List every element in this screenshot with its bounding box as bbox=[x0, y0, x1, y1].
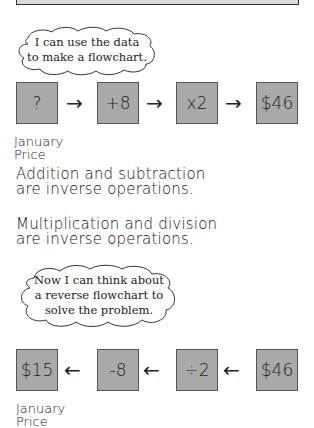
thought-cloud-1: I can use the data to make a flowchart. bbox=[14, 26, 160, 76]
flow-box-times-2: x2 bbox=[176, 82, 218, 124]
note-line: are inverse operations. bbox=[16, 232, 217, 247]
flow-box-result: $46 bbox=[256, 82, 298, 124]
cloud2-line-3: solve the problem. bbox=[18, 303, 180, 318]
caption-line-2: Price bbox=[14, 148, 63, 161]
flow-box-subtract-8: -8 bbox=[97, 349, 139, 391]
flow-box-january-price: ? bbox=[16, 82, 58, 124]
cloud1-line-1: I can use the data bbox=[14, 35, 160, 50]
thought-cloud-2: Now I can think about a reverse flowchar… bbox=[18, 264, 180, 328]
january-price-caption: January Price bbox=[16, 402, 65, 428]
cloud2-line-2: a reverse flowchart to bbox=[18, 288, 180, 303]
arrow-right-icon: → bbox=[146, 93, 163, 113]
arrow-left-icon: ← bbox=[143, 360, 160, 380]
cloud1-line-2: to make a flowchart. bbox=[14, 50, 160, 65]
top-panel bbox=[16, 0, 299, 5]
note-multiplication-division: Multiplication and division are inverse … bbox=[16, 217, 217, 247]
flow-box-january-price: $15 bbox=[16, 349, 58, 391]
cloud2-line-1: Now I can think about bbox=[18, 273, 180, 288]
arrow-left-icon: ← bbox=[223, 360, 240, 380]
flow-box-divide-2: ÷2 bbox=[176, 349, 218, 391]
january-price-caption: January Price bbox=[14, 135, 63, 161]
flow-box-start: $46 bbox=[256, 349, 298, 391]
arrow-right-icon: → bbox=[66, 93, 83, 113]
flow-box-add-8: +8 bbox=[97, 82, 139, 124]
arrow-left-icon: ← bbox=[64, 360, 81, 380]
note-addition-subtraction: Addition and subtraction are inverse ope… bbox=[16, 167, 206, 197]
caption-line-2: Price bbox=[16, 415, 65, 428]
note-line: are inverse operations. bbox=[16, 182, 206, 197]
arrow-right-icon: → bbox=[225, 93, 242, 113]
